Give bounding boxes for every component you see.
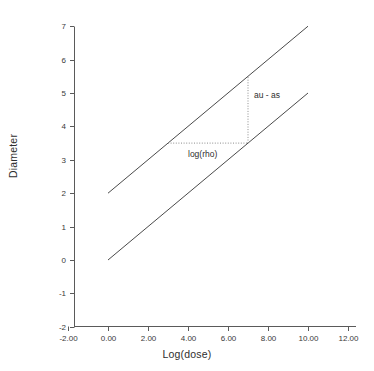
y-axis-title: Diameter xyxy=(7,121,19,191)
x-tick-label: -2.00 xyxy=(49,334,89,343)
x-tick-marks xyxy=(69,327,349,332)
y-tick-label: 7 xyxy=(44,22,66,31)
log-rho-guide-label: log(rho) xyxy=(188,149,217,159)
y-tick-marks xyxy=(70,0,75,328)
y-tick-label: 4 xyxy=(44,122,66,131)
x-tick-label: 2.00 xyxy=(129,334,169,343)
y-tick-label: 1 xyxy=(44,223,66,232)
au-as-guide-label: au - as xyxy=(254,90,280,100)
x-tick-label: 12.00 xyxy=(329,334,369,343)
y-tick-label: -2 xyxy=(44,323,66,332)
y-tick-label: 6 xyxy=(44,56,66,65)
y-tick-label: 0 xyxy=(44,256,66,265)
x-axis-title: Log(dose) xyxy=(0,348,374,360)
y-tick-label: 2 xyxy=(44,189,66,198)
y-tick-label: -1 xyxy=(44,289,66,298)
x-tick-label: 4.00 xyxy=(169,334,209,343)
x-tick-label: 6.00 xyxy=(209,334,249,343)
y-tick-label: 5 xyxy=(44,89,66,98)
chart-figure: Diameter Log(dose) -2-1012345678-2.000.0… xyxy=(0,0,374,371)
x-tick-label: 0.00 xyxy=(89,334,129,343)
x-tick-label: 8.00 xyxy=(249,334,289,343)
y-tick-label: 3 xyxy=(44,156,66,165)
x-tick-label: 10.00 xyxy=(289,334,329,343)
